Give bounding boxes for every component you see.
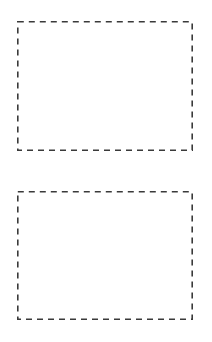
canvas bbox=[0, 0, 212, 342]
dashed-placeholder-box-1 bbox=[17, 21, 193, 151]
dashed-placeholder-box-2 bbox=[17, 191, 193, 320]
